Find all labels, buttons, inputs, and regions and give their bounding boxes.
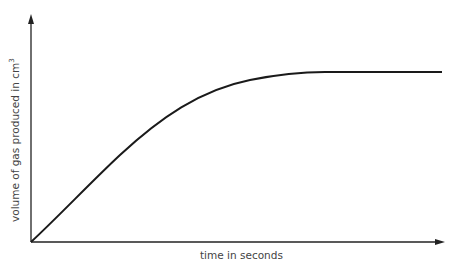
gas-volume-curve	[31, 72, 442, 242]
y-axis-label-text: volume of gas produced in cm	[9, 63, 21, 222]
x-axis-label: time in seconds	[200, 249, 283, 261]
y-axis-label-superscript: 3	[8, 58, 16, 62]
x-axis-arrow-icon	[435, 239, 445, 245]
y-axis-arrow-icon	[28, 14, 34, 24]
y-axis-label: volume of gas produced in cm3	[8, 58, 21, 222]
chart-canvas	[0, 0, 452, 275]
